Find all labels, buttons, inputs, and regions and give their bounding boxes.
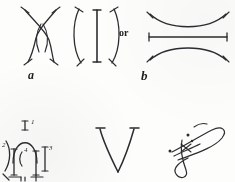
stacked-arcs-svg xyxy=(146,11,230,63)
opposed-arcs-svg xyxy=(72,6,122,68)
figure-calligraphic-flourish xyxy=(164,118,230,180)
figure-opposed-arcs-bar xyxy=(72,6,122,68)
letter-v-svg xyxy=(96,126,142,176)
crossing-arcs-svg xyxy=(16,4,78,68)
or-connector-label: or xyxy=(119,27,128,38)
figure-crossing-arcs xyxy=(16,4,78,68)
arc-number-1: 1 xyxy=(31,119,35,126)
figure-stacked-arcs-bar xyxy=(146,11,230,63)
figure-label-a: a xyxy=(28,69,34,81)
arc-number-4: 4 xyxy=(24,147,28,154)
figure-label-b: b xyxy=(141,69,148,82)
scanned-diagram-page: a or xyxy=(0,0,235,182)
arc-number-2: 2 xyxy=(2,142,6,149)
figure-letter-v xyxy=(96,126,142,176)
flourish-svg xyxy=(164,118,230,180)
arc-number-3: 3 xyxy=(49,145,53,152)
